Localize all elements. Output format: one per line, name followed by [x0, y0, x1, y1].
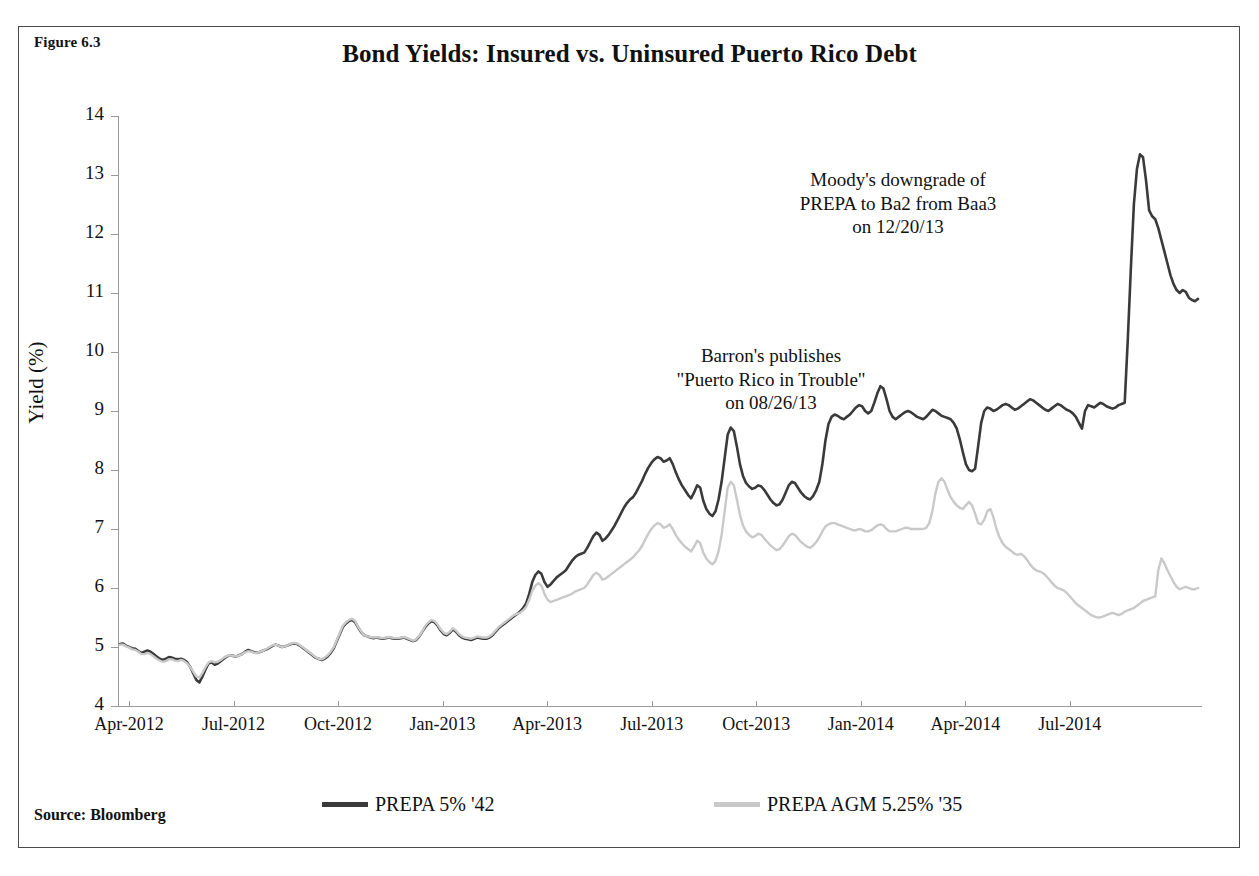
- y-tick-label: 6: [64, 575, 104, 597]
- legend-swatch-uninsured: [322, 802, 368, 807]
- series-line-uninsured: [120, 154, 1198, 682]
- y-tick-label: 10: [64, 339, 104, 361]
- series-line-insured: [120, 478, 1198, 677]
- y-tick-label: 5: [64, 634, 104, 656]
- page-title: Bond Yields: Insured vs. Uninsured Puert…: [0, 40, 1259, 68]
- y-tick-label: 11: [64, 280, 104, 302]
- annotation-barrons-article: Barron's publishes "Puerto Rico in Troub…: [640, 344, 902, 415]
- source-note: Source: Bloomberg: [34, 806, 166, 824]
- x-axis-line: [118, 706, 1202, 707]
- x-tick-label: Jul-2014: [995, 714, 1145, 735]
- y-axis-label: Yield (%): [24, 313, 49, 453]
- legend-swatch-insured: [714, 802, 760, 807]
- legend-item-prepa-5-42[interactable]: PREPA 5% '42: [322, 793, 495, 816]
- y-tick-label: 13: [64, 162, 104, 184]
- y-tick-label: 14: [64, 103, 104, 125]
- y-tick-label: 7: [64, 516, 104, 538]
- y-tick-label: 4: [64, 693, 104, 715]
- annotation-moodys-downgrade: Moody's downgrade of PREPA to Ba2 from B…: [762, 168, 1034, 239]
- y-tick-label: 8: [64, 457, 104, 479]
- figure-root: Figure 6.3 Bond Yields: Insured vs. Unin…: [0, 0, 1259, 876]
- legend-item-prepa-agm-525-35[interactable]: PREPA AGM 5.25% '35: [714, 793, 962, 816]
- y-tick-label: 12: [64, 221, 104, 243]
- legend-label-insured: PREPA AGM 5.25% '35: [767, 793, 962, 816]
- legend-label-uninsured: PREPA 5% '42: [375, 793, 495, 816]
- chart-legend: PREPA 5% '42 PREPA AGM 5.25% '35: [118, 793, 1118, 827]
- y-tick-label: 9: [64, 398, 104, 420]
